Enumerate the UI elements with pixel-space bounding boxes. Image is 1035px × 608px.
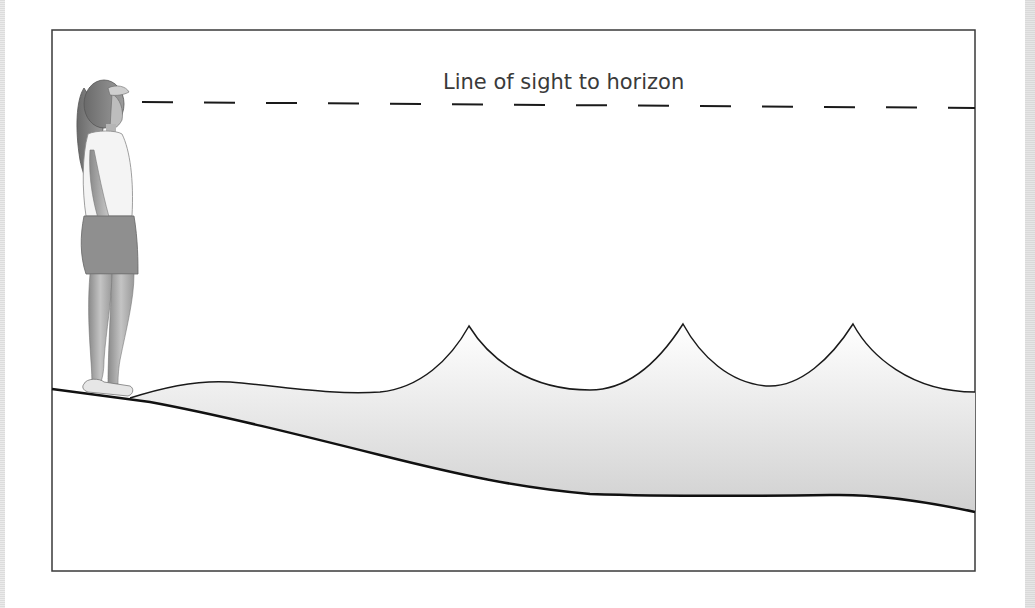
line-of-sight-label: Line of sight to horizon: [443, 70, 684, 94]
